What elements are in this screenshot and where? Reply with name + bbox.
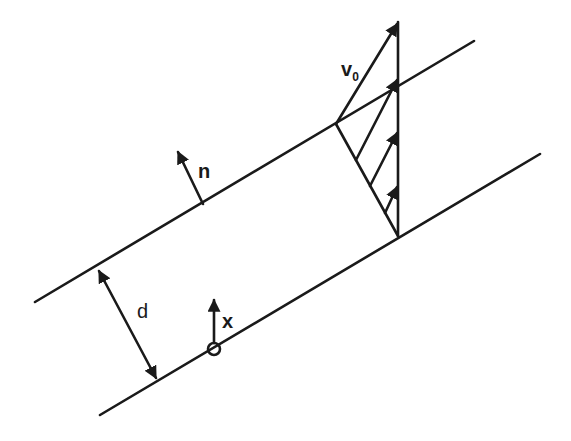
velocity-label: v0 (341, 58, 359, 84)
velocity-symbol: v (341, 58, 352, 80)
lower-wall-line (100, 154, 540, 415)
diagram-canvas: v0 n d x (0, 0, 571, 441)
profile-arrow-1 (356, 80, 397, 160)
normal-label: n (198, 160, 210, 183)
x-coordinate-label: x (222, 310, 233, 333)
velocity-subscript: 0 (352, 70, 359, 84)
profile-arrow-2 (370, 133, 397, 186)
profile-arrow-3 (385, 187, 397, 213)
thickness-dimension-arrow (99, 271, 156, 378)
thickness-label: d (137, 300, 148, 323)
upper-wall-line (35, 41, 474, 302)
diagram-svg (0, 0, 571, 441)
